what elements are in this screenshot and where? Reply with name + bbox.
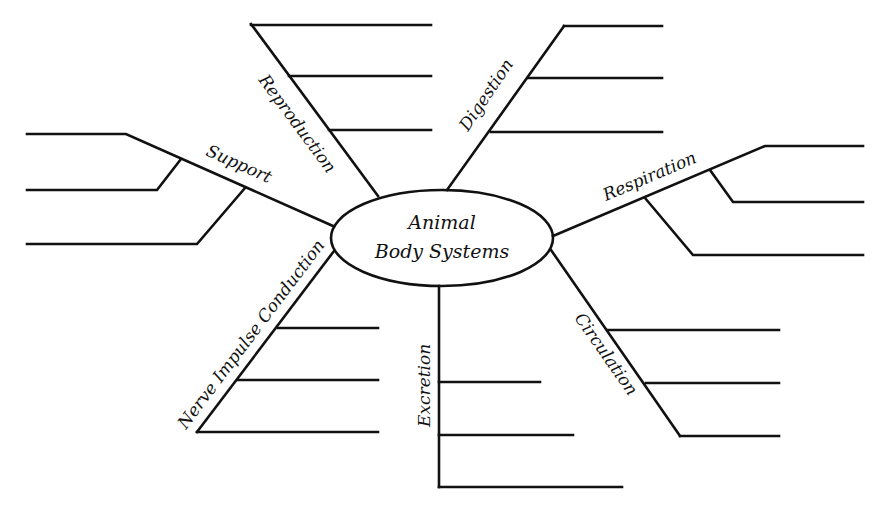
branch-label-nerve: Nerve Impulse Conduction — [173, 236, 329, 434]
center-title-line2: Body Systems — [374, 240, 510, 262]
branch-label-digestion: Digestion — [454, 55, 517, 135]
blank-line-2 — [27, 188, 245, 244]
branch-circulation: Circulation — [551, 250, 779, 436]
branch-respiration: Respiration — [553, 146, 863, 255]
branch-digestion: Digestion — [447, 26, 662, 190]
branch-line — [197, 251, 334, 432]
branch-support: Support — [27, 134, 333, 244]
blank-line-1 — [710, 170, 863, 202]
branch-line — [27, 134, 333, 226]
branch-nerve-impulse-conduction: Nerve Impulse Conduction — [173, 236, 378, 434]
branch-line — [551, 250, 680, 436]
center-node: Animal Body Systems — [331, 190, 553, 286]
concept-map: Animal Body Systems Reproduction Digesti… — [0, 0, 881, 520]
blank-line-2 — [645, 198, 863, 255]
branch-label-excretion: Excretion — [414, 344, 434, 428]
center-ellipse — [331, 190, 553, 286]
branch-line — [553, 146, 863, 236]
branch-label-support: Support — [203, 140, 275, 187]
center-title-line1: Animal — [406, 211, 475, 233]
branch-reproduction: Reproduction — [251, 24, 431, 196]
blank-line-1 — [27, 159, 181, 190]
branch-label-circulation: Circulation — [571, 309, 642, 399]
